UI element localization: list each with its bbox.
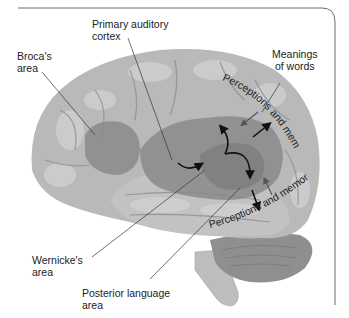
label-brocas-area: Broca's area	[17, 50, 52, 74]
label-primary-auditory-cortex: Primary auditory cortex	[92, 18, 168, 42]
label-wernickes-area: Wernicke's area	[32, 254, 83, 278]
label-posterior-language-area: Posterior language area	[82, 287, 170, 311]
brocas-area-region	[85, 121, 140, 175]
brain-language-diagram: Perceptions and memories Perceptions and…	[0, 0, 349, 318]
label-meanings-of-words: Meanings of words	[272, 48, 318, 72]
